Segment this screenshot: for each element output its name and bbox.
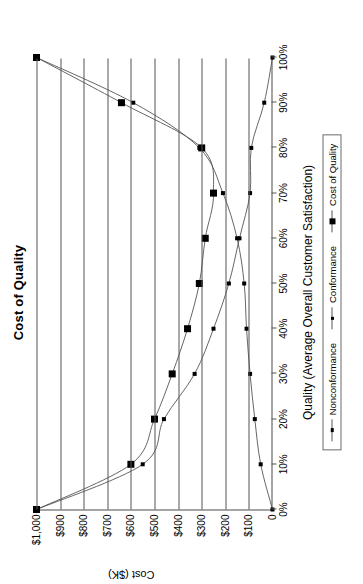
x-tick-label: 70%	[277, 183, 288, 203]
legend-marker-icon	[329, 217, 335, 223]
data-point-marker	[117, 99, 124, 106]
legend-swatch-icon	[331, 306, 332, 328]
data-point-marker	[235, 236, 239, 240]
y-axis-title: Cost ($K)	[108, 568, 154, 580]
chart-title: Cost of Quality	[10, 0, 25, 584]
x-axis-tick	[271, 463, 276, 464]
y-gridline	[201, 58, 202, 509]
x-axis-tick	[271, 146, 276, 147]
data-point-marker	[258, 462, 262, 466]
legend-swatch-icon	[331, 419, 332, 441]
y-tick-label: $100	[243, 514, 254, 560]
y-tick-label: $700	[101, 514, 112, 560]
y-tick-label: $900	[54, 514, 65, 560]
chart-canvas: Cost of Quality 0$100$200$300$400$500$60…	[0, 0, 363, 584]
data-point-marker	[168, 370, 175, 377]
legend-marker-icon	[330, 316, 333, 319]
legend-swatch-icon	[331, 209, 332, 231]
x-axis-tick	[271, 418, 276, 419]
y-tick-label: $300	[196, 514, 207, 560]
data-point-marker	[210, 189, 217, 196]
y-gridline	[83, 58, 84, 509]
x-axis-title: Quality (Average Overall Customer Satisf…	[300, 0, 314, 584]
data-point-marker	[262, 100, 266, 104]
x-tick-label: 80%	[277, 137, 288, 157]
data-point-marker	[192, 371, 196, 375]
legend-item-cost-of-quality[interactable]: Cost of Quality	[326, 143, 337, 231]
x-axis-tick	[271, 282, 276, 283]
data-point-marker	[244, 326, 248, 330]
x-axis-tick	[271, 508, 276, 509]
y-gridline	[60, 58, 61, 509]
x-axis-tick	[271, 101, 276, 102]
legend-item-label: Conformance	[326, 245, 337, 302]
x-axis-tick	[271, 56, 276, 57]
x-tick-label: 50%	[277, 273, 288, 293]
x-tick-label: 0%	[277, 502, 288, 516]
chart-legend: NonconformanceConformanceCost of Quality	[322, 134, 341, 450]
data-point-marker	[184, 325, 191, 332]
legend-marker-icon	[330, 428, 334, 432]
x-tick-label: 90%	[277, 92, 288, 112]
data-point-marker	[252, 417, 256, 421]
y-gridline	[225, 58, 226, 509]
y-tick-label: $200	[219, 514, 230, 560]
y-gridline	[36, 58, 37, 509]
x-tick-label: 40%	[277, 318, 288, 338]
x-axis-tick	[271, 237, 276, 238]
y-gridline	[107, 58, 108, 509]
legend-item-nonconformance[interactable]: Nonconformance	[326, 342, 337, 440]
y-gridline	[154, 58, 155, 509]
data-point-marker	[140, 462, 144, 466]
y-gridline	[248, 58, 249, 509]
x-tick-label: 10%	[277, 454, 288, 474]
y-tick-label: $500	[149, 514, 160, 560]
x-tick-label: 100%	[277, 44, 288, 70]
series-line-cost-of-quality	[36, 57, 213, 509]
data-point-marker	[226, 281, 230, 285]
y-tick-label: $600	[125, 514, 136, 560]
x-tick-label: 30%	[277, 363, 288, 383]
y-tick-label: $400	[172, 514, 183, 560]
data-point-marker	[211, 326, 215, 330]
legend-item-conformance[interactable]: Conformance	[326, 245, 337, 328]
data-point-marker	[242, 281, 246, 285]
x-axis-tick	[271, 372, 276, 373]
x-tick-label: 60%	[277, 228, 288, 248]
legend-item-label: Cost of Quality	[326, 143, 337, 205]
y-tick-label: $1,000	[31, 514, 42, 560]
legend-item-label: Nonconformance	[326, 342, 337, 414]
plot-area: 0$100$200$300$400$500$600$700$800$900$1,…	[36, 58, 272, 510]
x-axis-tick	[271, 192, 276, 193]
x-axis-tick	[271, 327, 276, 328]
y-tick-label: $800	[78, 514, 89, 560]
y-gridline	[130, 58, 131, 509]
x-tick-label: 20%	[277, 409, 288, 429]
rotated-chart-wrapper: Cost of Quality 0$100$200$300$400$500$60…	[0, 0, 363, 584]
data-point-marker	[220, 191, 224, 195]
data-point-marker	[161, 417, 165, 421]
y-tick-label: 0	[267, 514, 278, 560]
y-gridline	[178, 58, 179, 509]
